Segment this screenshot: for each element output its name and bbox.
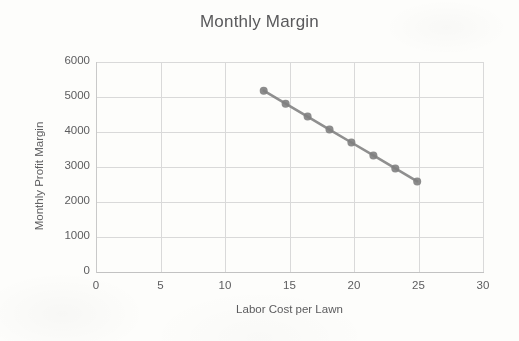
- x-tick-label-0: 0: [76, 279, 116, 291]
- y-tick-label-5000: 5000: [38, 89, 90, 101]
- x-axis-tick-labels: 051015202530: [0, 279, 519, 299]
- monthly-margin-chart: Monthly Margin Monthly Profit Margin Lab…: [0, 0, 519, 341]
- x-tick-label-30: 30: [463, 279, 503, 291]
- data-point-2: [304, 113, 312, 121]
- y-axis-line: [96, 62, 97, 273]
- data-point-6: [391, 164, 399, 172]
- data-point-7: [413, 177, 421, 185]
- series-line-monthly-profit-margin: [96, 62, 483, 272]
- y-tick-label-6000: 6000: [38, 54, 90, 66]
- y-tick-label-3000: 3000: [38, 159, 90, 171]
- y-tick-label-0: 0: [38, 264, 90, 276]
- data-point-5: [369, 151, 377, 159]
- y-tick-label-1000: 1000: [38, 229, 90, 241]
- y-tick-label-2000: 2000: [38, 194, 90, 206]
- plot-area: [96, 62, 483, 272]
- x-tick-label-25: 25: [399, 279, 439, 291]
- data-point-4: [347, 139, 355, 147]
- y-tick-label-4000: 4000: [38, 124, 90, 136]
- x-tick-label-20: 20: [334, 279, 374, 291]
- data-point-1: [282, 100, 290, 108]
- x-tick-label-10: 10: [205, 279, 245, 291]
- x-tick-label-5: 5: [141, 279, 181, 291]
- gridline-v-30: [483, 62, 484, 272]
- data-point-3: [326, 126, 334, 134]
- x-axis-line: [96, 272, 484, 273]
- x-tick-label-15: 15: [270, 279, 310, 291]
- x-axis-title: Labor Cost per Lawn: [96, 303, 483, 315]
- data-point-0: [260, 87, 268, 95]
